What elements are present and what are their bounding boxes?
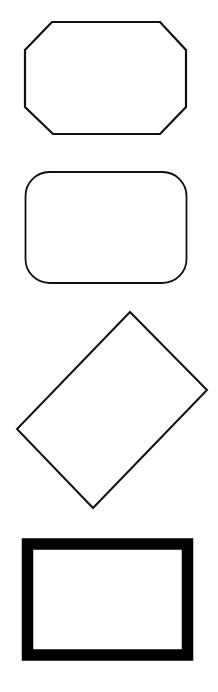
rounded-rectangle-shape	[26, 172, 187, 283]
shapes-svg	[0, 0, 218, 692]
rotated-rectangle-shape	[17, 312, 207, 508]
shapes-canvas	[0, 0, 218, 692]
octagon-shape	[25, 22, 186, 134]
thick-border-rectangle-shape	[28, 544, 188, 655]
